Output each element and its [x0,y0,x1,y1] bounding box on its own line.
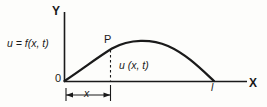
length-label: l [211,82,213,93]
vibrating-string-figure: u = f(x, t) Y X 0 P u (x, t) l x [0,0,267,107]
x-axis-label: X [249,77,257,89]
displacement-label: u (x, t) [119,60,149,71]
dimension-arrowhead-right [104,92,111,97]
dimension-x-label: x [84,88,89,99]
curve-equation-label: u = f(x, t) [7,38,49,49]
dimension-arrowhead-left [66,92,73,97]
point-p-label: P [104,34,111,45]
y-axis-label: Y [52,5,60,17]
origin-label: 0 [55,73,61,84]
figure-canvas [0,0,267,107]
